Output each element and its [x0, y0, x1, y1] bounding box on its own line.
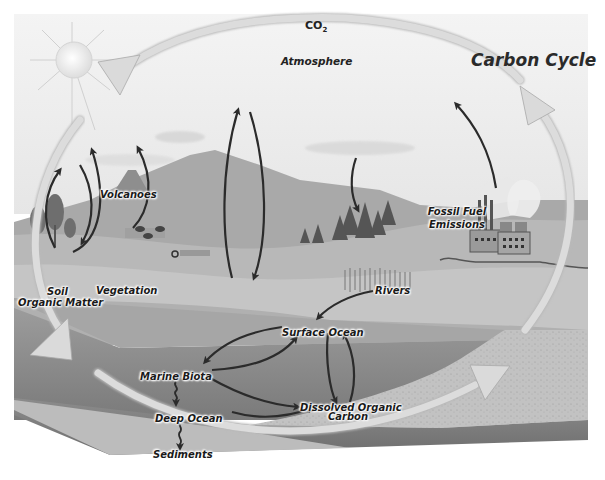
co2-label: CO2: [305, 19, 327, 34]
label-vegetation: Vegetation: [96, 286, 157, 296]
label-fossil-fuel-emissions: Fossil Fuel Emissions: [422, 207, 492, 230]
atmosphere-label: Atmosphere: [281, 55, 352, 67]
diagram-title: Carbon Cycle: [471, 50, 596, 70]
label-fossil-fuel-line2: Emissions: [422, 220, 492, 230]
label-doc-line2: Carbon: [300, 412, 396, 422]
label-dissolved-organic-carbon: Dissolved Organic Carbon: [300, 403, 396, 422]
label-soil: Soil: [47, 287, 68, 297]
label-volcanoes: Volcanoes: [100, 190, 157, 200]
label-organic-matter: Organic Matter: [18, 298, 103, 308]
label-surface-ocean: Surface Ocean: [282, 328, 364, 338]
label-marine-biota: Marine Biota: [140, 372, 212, 382]
label-deep-ocean: Deep Ocean: [155, 414, 223, 424]
label-fossil-fuel-line1: Fossil Fuel: [422, 207, 492, 217]
label-rivers: Rivers: [375, 286, 410, 296]
label-sediments: Sediments: [153, 450, 213, 460]
